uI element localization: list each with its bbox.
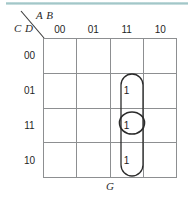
- kmap-cell-r2c2[interactable]: 1: [111, 109, 144, 144]
- column-header-2: 11: [110, 22, 144, 37]
- kmap-cell-r1c2[interactable]: 1: [111, 74, 144, 109]
- kmap-grid: 1 1 1: [43, 38, 177, 178]
- kmap-cell-value: [44, 39, 76, 73]
- karnaugh-map: 1 1 1: [43, 38, 177, 178]
- row-header-column: 00 01 11 10: [17, 38, 42, 178]
- kmap-cell-value: [77, 143, 109, 177]
- kmap-cell-r2c1[interactable]: [77, 109, 110, 144]
- row-header-2: 11: [17, 108, 42, 143]
- kmap-cell-value: [44, 143, 76, 177]
- kmap-cell-value: [144, 143, 176, 177]
- kmap-cell-r2c0[interactable]: [44, 109, 77, 144]
- kmap-cell-r3c2[interactable]: 1: [111, 143, 144, 178]
- kmap-cell-r0c1[interactable]: [77, 39, 110, 74]
- kmap-cell-value: [44, 109, 76, 143]
- kmap-cell-value: [44, 74, 76, 108]
- row-header-3: 10: [17, 143, 42, 178]
- kmap-cell-value: [144, 39, 176, 73]
- row-header-0: 00: [17, 38, 42, 73]
- kmap-cell-r0c0[interactable]: [44, 39, 77, 74]
- kmap-cell-r0c3[interactable]: [144, 39, 177, 74]
- column-header-row: 00 01 11 10: [43, 22, 177, 37]
- kmap-cell-r1c3[interactable]: [144, 74, 177, 109]
- kmap-cell-r3c0[interactable]: [44, 143, 77, 178]
- kmap-cell-value: 1: [111, 74, 143, 108]
- kmap-cell-value: [111, 39, 143, 73]
- kmap-cell-r1c0[interactable]: [44, 74, 77, 109]
- column-header-0: 00: [43, 22, 77, 37]
- kmap-cell-r3c3[interactable]: [144, 143, 177, 178]
- row-header-1: 01: [17, 73, 42, 108]
- column-axis-label: A B: [36, 9, 54, 21]
- kmap-cell-value: [144, 109, 176, 143]
- output-function-label: G: [43, 180, 177, 192]
- kmap-cell-value: [144, 74, 176, 108]
- kmap-cell-value: [77, 39, 109, 73]
- kmap-cell-r0c2[interactable]: [111, 39, 144, 74]
- kmap-cell-r2c3[interactable]: [144, 109, 177, 144]
- column-header-1: 01: [77, 22, 111, 37]
- kmap-cell-value: 1: [111, 109, 143, 143]
- kmap-cell-r3c1[interactable]: [77, 143, 110, 178]
- kmap-cell-r1c1[interactable]: [77, 74, 110, 109]
- column-header-3: 10: [144, 22, 178, 37]
- kmap-cell-value: [77, 109, 109, 143]
- row-axis-label: C D: [14, 22, 34, 34]
- kmap-cell-value: 1: [111, 143, 143, 177]
- kmap-cell-value: [77, 74, 109, 108]
- top-divider-rule: [6, 2, 188, 5]
